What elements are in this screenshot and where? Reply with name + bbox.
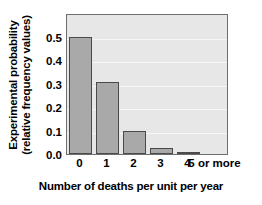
y-axis-tick-label: 0.3: [46, 79, 62, 91]
y-axis-tick-label: 0.5: [46, 32, 62, 44]
bar-series: [67, 15, 227, 154]
bar: [96, 82, 119, 154]
bar: [123, 131, 146, 154]
bar: [150, 148, 173, 154]
y-axis-tick-labels: 0.00.10.20.30.40.5: [36, 14, 64, 155]
y-axis-title: Experimental probability (relative frequ…: [0, 0, 40, 170]
bar: [177, 152, 200, 154]
y-axis-tick-label: 0.1: [46, 126, 62, 138]
y-axis-title-line-1: Experimental probability: [7, 15, 20, 155]
x-axis-title: Number of deaths per unit per year: [0, 180, 262, 192]
plot-area: [66, 14, 228, 155]
y-axis-tick-label: 0.4: [46, 55, 62, 67]
y-axis-tick-label: 0.2: [46, 102, 62, 114]
x-axis-tick-labels: 012345 or more: [66, 157, 228, 173]
x-axis-tick-label: 0: [76, 157, 82, 169]
bar-chart-figure: Experimental probability (relative frequ…: [0, 0, 262, 205]
x-axis-tick-label: 1: [103, 157, 109, 169]
y-axis-tick-label: 0.0: [46, 149, 62, 161]
bar: [69, 37, 92, 154]
x-axis-tick-label: 2: [130, 157, 136, 169]
x-axis-tick-label: 3: [157, 157, 163, 169]
y-axis-title-line-2: (relative frequency values): [20, 15, 33, 155]
x-axis-tick-label: 5 or more: [188, 157, 240, 169]
